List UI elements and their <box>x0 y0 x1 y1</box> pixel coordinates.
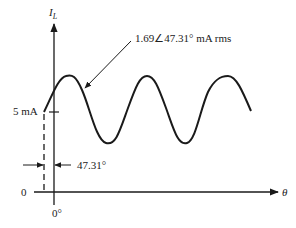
dc-level-label: 5 mA <box>13 105 38 117</box>
phase-label: 47.31° <box>77 159 106 171</box>
current-waveform <box>44 75 251 143</box>
origin-x-label: 0° <box>52 207 62 219</box>
origin-y-label: 0 <box>21 186 27 198</box>
callout-label: 1.69∠47.31° mA rms <box>135 32 231 44</box>
waveform-diagram: IL θ 1.69∠47.31° mA rms 5 mA 47.31° 0 0° <box>0 0 296 228</box>
callout-arrow <box>85 41 131 88</box>
x-axis-label: θ <box>282 186 288 198</box>
y-axis-label: IL <box>48 6 58 21</box>
